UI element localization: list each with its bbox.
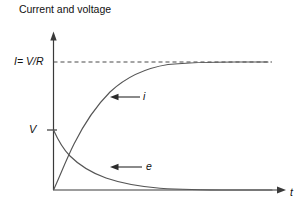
curve-voltage-e (54, 130, 273, 190)
y-tick-label-v: V (29, 123, 36, 136)
annotation-arrow-voltage (110, 164, 142, 170)
curve-current-i (54, 62, 269, 190)
curve-label-current: i (143, 90, 145, 102)
chart-figure: Current and voltage I= V/R V t i e (0, 0, 304, 208)
asymptote-label: I= V/R (14, 55, 43, 67)
chart-title: Current and voltage (16, 3, 114, 15)
plot-canvas (0, 0, 304, 208)
y-axis (50, 32, 56, 191)
annotation-arrow-current (110, 94, 140, 100)
curve-label-voltage: e (146, 160, 152, 172)
x-axis-label: t (290, 186, 293, 198)
